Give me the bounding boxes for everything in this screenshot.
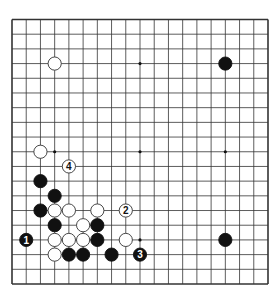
black-stone-icon (219, 233, 232, 246)
black-stone-icon (105, 248, 118, 261)
white-stone-icon (34, 145, 47, 158)
numbered-move-3: 3 (133, 248, 146, 261)
move-number-label: 2 (123, 205, 129, 216)
white-stone-icon (77, 219, 90, 232)
black-stone-icon (219, 57, 232, 70)
move-number-label: 4 (66, 161, 72, 172)
numbered-move-4: 4 (62, 160, 75, 173)
black-stone-icon (48, 219, 61, 232)
star-point-icon (138, 62, 141, 65)
numbered-move-1: 1 (20, 233, 33, 246)
white-stone-icon (48, 248, 61, 261)
move-number-label: 1 (23, 235, 29, 246)
black-stone-icon (34, 175, 47, 188)
go-board-canvas[interactable]: 1234 (0, 0, 277, 297)
star-point-icon (138, 150, 141, 153)
white-stone-icon (62, 204, 75, 217)
star-point-icon (138, 238, 141, 241)
white-stone-icon (48, 57, 61, 70)
white-stone-icon (62, 233, 75, 246)
white-stone-icon (48, 233, 61, 246)
black-stone-icon (91, 219, 104, 232)
white-stone-icon (119, 233, 132, 246)
black-stone-icon (34, 204, 47, 217)
white-stone-icon (91, 204, 104, 217)
white-stone-icon (77, 233, 90, 246)
black-stone-icon (77, 248, 90, 261)
black-stone-icon (48, 189, 61, 202)
numbered-move-2: 2 (119, 204, 132, 217)
white-stone-icon (48, 204, 61, 217)
black-stone-icon (91, 233, 104, 246)
black-stone-icon (62, 248, 75, 261)
star-point-icon (53, 150, 56, 153)
move-number-label: 3 (137, 249, 143, 260)
star-point-icon (224, 150, 227, 153)
go-board[interactable]: 1234 (0, 0, 277, 297)
